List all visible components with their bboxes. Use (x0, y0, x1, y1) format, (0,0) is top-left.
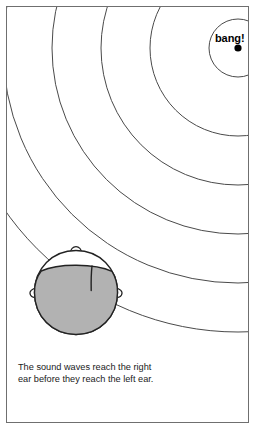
sound-wave-arc-1 (209, 19, 256, 77)
listener-head (30, 247, 122, 335)
caption-line-1: The sound waves reach the right (18, 362, 208, 374)
sound-waves-figure: bang! The sound waves reach the right ea… (0, 0, 256, 430)
caption-line-2: ear before they reach the left ear. (18, 374, 208, 386)
sound-wave-arc-3 (101, 0, 256, 185)
figure-caption: The sound waves reach the right ear befo… (18, 362, 208, 385)
sound-source-dot (234, 44, 241, 51)
bang-label: bang! (215, 32, 244, 44)
hair-shape (34, 265, 117, 334)
sound-wave-arc-2 (150, 0, 256, 136)
